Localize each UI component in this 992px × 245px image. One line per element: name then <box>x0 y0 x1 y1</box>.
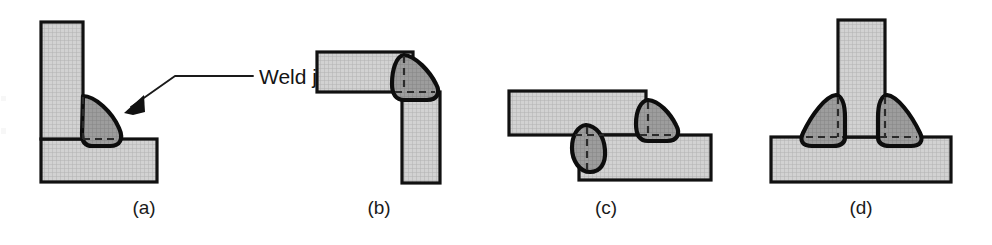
welding-joint-figure: (a) Weld joint (b) <box>0 0 992 245</box>
panel-d-base-plate <box>771 137 951 182</box>
panel-a-caption: (a) <box>132 197 155 218</box>
panel-d-caption: (d) <box>849 197 872 218</box>
figure-canvas: (a) Weld joint (b) <box>0 0 992 245</box>
panel-b-vertical-plate <box>402 92 440 183</box>
panel-a-vertical-plate <box>41 22 83 139</box>
panel-c-weld-bead-left <box>572 125 605 172</box>
panel-b-caption: (b) <box>367 197 390 218</box>
panel-c-caption: (c) <box>595 197 617 218</box>
